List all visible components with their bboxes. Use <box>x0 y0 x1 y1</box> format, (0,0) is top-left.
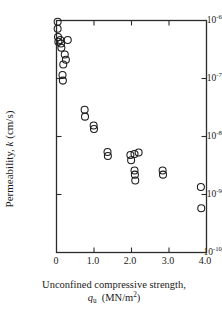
data-point <box>58 44 65 51</box>
data-point <box>82 113 89 120</box>
data-point <box>198 205 205 212</box>
x-axis-title-line2: qu (MN/m2) <box>8 291 220 306</box>
plot-area <box>0 0 222 318</box>
data-point <box>104 153 111 160</box>
axis-ticks <box>57 21 207 253</box>
data-markers <box>54 18 205 211</box>
data-point <box>54 25 61 32</box>
x-axis-title-line1: Unconfined compressive strength, <box>8 278 220 291</box>
data-point <box>54 18 61 25</box>
data-point <box>64 37 71 44</box>
data-point <box>160 171 167 178</box>
data-point <box>135 149 142 156</box>
data-point <box>81 106 88 113</box>
data-point <box>128 157 135 164</box>
x-axis-title: Unconfined compressive strength, qu (MN/… <box>8 278 220 306</box>
permeability-vs-strength-chart: Permeability, k (cm/s) 10-6 10-7 10-8 10… <box>0 0 222 318</box>
axis-frame <box>57 21 207 253</box>
data-point <box>197 183 204 190</box>
